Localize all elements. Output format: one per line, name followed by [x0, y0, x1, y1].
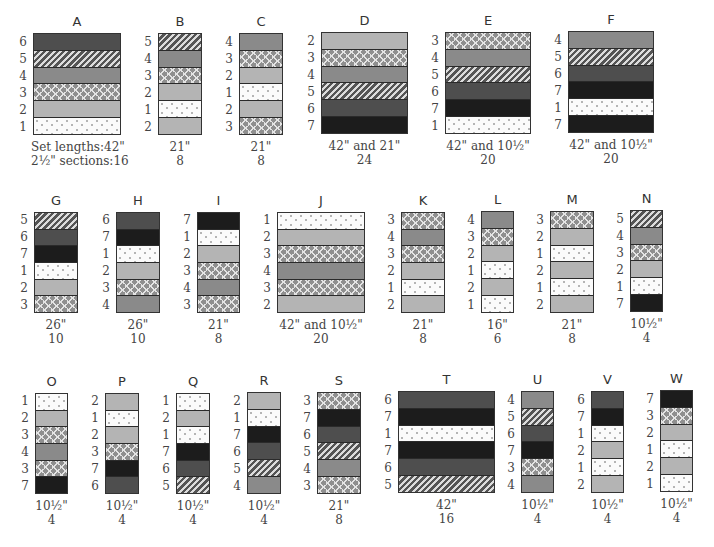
- fabric-strip-7: [399, 409, 494, 426]
- fabric-number: 2: [569, 442, 585, 459]
- fabric-number-column: 345671: [423, 32, 439, 134]
- fabric-strip-2: [551, 296, 593, 312]
- fabric-number: 4: [546, 31, 562, 48]
- fabric-strip-3: [278, 246, 364, 263]
- fabric-number: 6: [376, 391, 392, 408]
- strip-set-b: [158, 33, 202, 135]
- fabric-number: 3: [94, 279, 110, 296]
- fabric-number-column: 121765: [154, 393, 170, 494]
- fabric-strip-5: [318, 443, 360, 460]
- fabric-strip-1: [36, 394, 67, 411]
- fabric-strip-3: [402, 246, 444, 263]
- fabric-number: 6: [295, 426, 311, 443]
- strip-set-m: [550, 211, 594, 313]
- fabric-number: 5: [136, 33, 152, 50]
- set-label-f: F: [558, 13, 664, 27]
- fabric-number-column: 123437: [13, 393, 29, 494]
- fabric-strip-2: [159, 118, 201, 134]
- strip-set-i: [197, 212, 240, 313]
- fabric-number: 4: [225, 477, 241, 494]
- fabric-strip-1: [240, 84, 282, 101]
- fabric-number-column: 123432: [255, 212, 271, 313]
- fabric-number-column: 456734: [499, 391, 515, 493]
- fabric-number: 5: [608, 210, 624, 227]
- fabric-number: 7: [175, 212, 191, 229]
- fabric-number: 1: [528, 279, 544, 296]
- fabric-number: 6: [299, 100, 315, 117]
- fabric-strip-1: [551, 246, 593, 263]
- fabric-strip-3: [34, 84, 120, 101]
- set-length: 10½": [587, 317, 707, 331]
- fabric-strip-1: [661, 441, 692, 458]
- fabric-strip-5: [35, 213, 77, 230]
- strip-set-a: [33, 33, 121, 135]
- fabric-number: 3: [295, 392, 311, 409]
- fabric-strip-2: [482, 246, 513, 263]
- set-label-l: L: [471, 193, 524, 207]
- fabric-number: 1: [13, 393, 29, 410]
- fabric-number: 6: [546, 65, 562, 82]
- fabric-strip-4: [248, 477, 280, 493]
- fabric-strip-3: [106, 444, 138, 461]
- fabric-strip-1: [106, 411, 138, 428]
- set-label-v: V: [581, 373, 634, 387]
- fabric-number-column: 543212: [136, 33, 152, 135]
- fabric-number: 1: [423, 117, 439, 134]
- fabric-number: 3: [255, 246, 271, 263]
- fabric-strip-3: [278, 280, 364, 297]
- fabric-strip-1: [402, 280, 444, 297]
- set-label-n: N: [620, 192, 673, 206]
- fabric-number-column: 217654: [225, 392, 241, 494]
- fabric-strip-5: [159, 34, 201, 51]
- fabric-number: 7: [499, 442, 515, 459]
- fabric-strip-3: [159, 68, 201, 85]
- fabric-number: 2: [11, 101, 27, 118]
- fabric-strip-2: [240, 101, 282, 118]
- fabric-strip-4: [402, 230, 444, 247]
- fabric-number: 5: [225, 460, 241, 477]
- fabric-strip-1: [592, 426, 623, 443]
- fabric-strip-5: [631, 211, 662, 228]
- section-count: 20: [551, 152, 671, 166]
- fabric-number-column: 432121: [459, 211, 475, 313]
- fabric-strip-2: [592, 442, 623, 459]
- fabric-number: 7: [376, 408, 392, 425]
- section-count: 20: [428, 153, 548, 167]
- fabric-number: 1: [94, 246, 110, 263]
- fabric-strip-3: [318, 477, 360, 493]
- fabric-strip-7: [661, 391, 692, 408]
- fabric-number: 1: [255, 212, 271, 229]
- fabric-number: 3: [217, 118, 233, 135]
- fabric-strip-2: [551, 229, 593, 246]
- fabric-number: 4: [217, 33, 233, 50]
- strip-set-t: [398, 391, 495, 493]
- fabric-number-column: 212376: [83, 393, 99, 494]
- fabric-number: 1: [638, 441, 654, 458]
- strip-set-k: [401, 212, 445, 313]
- set-label-j: J: [267, 194, 375, 208]
- fabric-number: 4: [459, 211, 475, 228]
- fabric-number: 2: [225, 392, 241, 409]
- fabric-strip-5: [446, 67, 530, 84]
- fabric-strip-5: [248, 460, 280, 477]
- strip-set-q: [176, 393, 210, 494]
- fabric-number-column: 671212: [569, 391, 585, 493]
- fabric-strip-4: [117, 296, 159, 312]
- fabric-strip-1: [177, 427, 209, 444]
- fabric-number: 7: [423, 100, 439, 117]
- fabric-number: 7: [12, 246, 28, 263]
- fabric-number: 2: [94, 262, 110, 279]
- fabric-strip-5: [399, 476, 494, 492]
- fabric-number: 3: [379, 246, 395, 263]
- fabric-strip-3: [240, 51, 282, 68]
- fabric-strip-1: [569, 99, 653, 116]
- fabric-strip-5: [322, 83, 407, 100]
- strip-set-u: [521, 391, 554, 493]
- fabric-strip-2: [159, 84, 201, 101]
- set-label-d: D: [311, 14, 418, 28]
- fabric-number: 1: [217, 84, 233, 101]
- fabric-strip-4: [34, 68, 120, 85]
- fabric-number: 4: [136, 50, 152, 67]
- set-length: 42" and 10½": [428, 139, 548, 153]
- fabric-number: 6: [154, 460, 170, 477]
